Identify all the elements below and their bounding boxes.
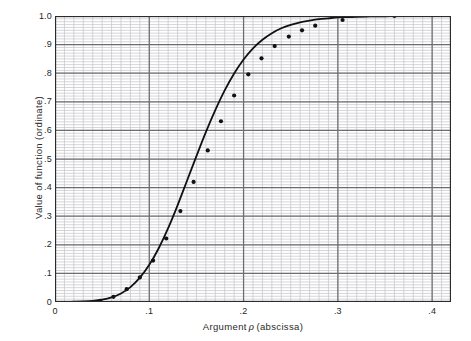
data-point — [287, 34, 291, 38]
data-point — [273, 44, 277, 48]
x-axis-title-prefix: Argument — [203, 321, 247, 332]
x-tick-label: .3 — [323, 307, 353, 316]
data-point — [192, 180, 196, 184]
chart-figure: Value of function (ordinate) 0.1.2.3.4.5… — [0, 0, 471, 341]
x-tick-label: .4 — [417, 307, 447, 316]
y-tick-label: .4 — [22, 183, 52, 192]
data-point — [151, 258, 155, 262]
y-tick-label: .2 — [22, 240, 52, 249]
y-tick-label: 0 — [22, 298, 52, 307]
x-axis-tick-labels: 0.1.2.3.4 — [0, 307, 471, 321]
y-tick-label: .5 — [22, 155, 52, 164]
data-point — [164, 236, 168, 240]
y-tick-label: .9 — [22, 40, 52, 49]
y-axis-tick-labels: 0.1.2.3.4.5.6.7.8.91.0 — [18, 0, 52, 341]
x-tick-label: .2 — [229, 307, 259, 316]
data-point — [138, 275, 142, 279]
data-point — [111, 295, 115, 299]
data-point — [232, 93, 236, 97]
data-point — [259, 56, 263, 60]
x-axis-title-suffix: (abscissa) — [256, 321, 303, 332]
data-point — [340, 18, 344, 22]
x-tick-label: .1 — [134, 307, 164, 316]
y-tick-label: 1.0 — [22, 12, 52, 21]
x-axis-title: Argumentρ(abscissa) — [55, 320, 451, 332]
data-point — [178, 209, 182, 213]
y-tick-label: .6 — [22, 126, 52, 135]
data-point — [125, 287, 129, 291]
y-tick-label: .1 — [22, 269, 52, 278]
data-point — [219, 119, 223, 123]
plot-svg — [55, 16, 451, 302]
rho-symbol: ρ — [247, 320, 257, 332]
data-point — [206, 148, 210, 152]
y-tick-label: .8 — [22, 69, 52, 78]
y-tick-label: .3 — [22, 212, 52, 221]
data-point — [313, 24, 317, 28]
y-tick-label: .7 — [22, 97, 52, 106]
data-point — [300, 28, 304, 32]
data-point — [246, 72, 250, 76]
x-tick-label: 0 — [40, 307, 70, 316]
plot-area — [55, 16, 451, 302]
